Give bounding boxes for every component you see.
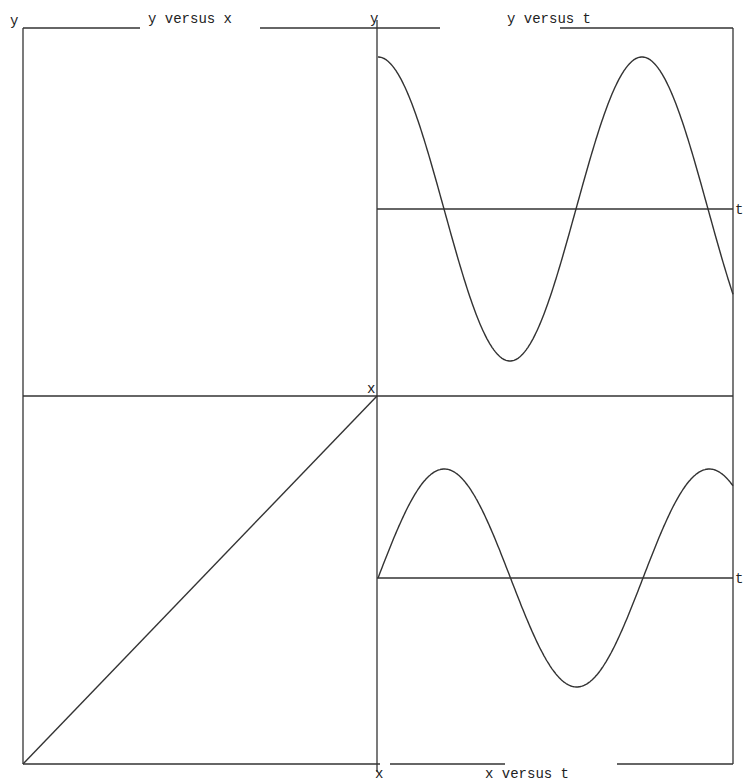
frames <box>23 20 733 772</box>
t-axis-label: t <box>735 571 743 587</box>
t-axis-label: t <box>735 202 743 218</box>
chart-title: y versus x <box>148 11 232 27</box>
four-panel-plot: y y versus x y y versus t t x t x x vers… <box>0 0 754 784</box>
chart-title: x versus t <box>485 766 569 782</box>
y-axis-label: y <box>370 11 378 27</box>
chart-title: y versus t <box>507 11 591 27</box>
x-axis-label: x <box>367 381 375 397</box>
x-vs-y-line <box>23 396 377 764</box>
x-axis-label: x <box>375 766 383 782</box>
y-axis-label: y <box>10 13 18 29</box>
